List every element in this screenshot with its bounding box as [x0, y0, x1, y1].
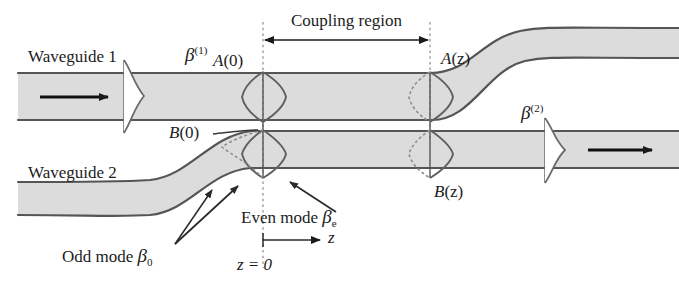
amplitude-az-arg: (z) [451, 49, 470, 68]
coupling-region-label: Coupling region [291, 12, 402, 29]
amplitude-az-label: A(z) [441, 50, 470, 67]
amplitude-b0-arg: (0) [179, 123, 199, 142]
amplitude-bz-label: B(z) [434, 183, 463, 200]
beta-2-superscript: (2) [530, 102, 543, 114]
odd-mode-label: Odd mode β0 [62, 246, 153, 268]
odd-mode-text: Odd mode [62, 247, 138, 266]
beta-2-label: β(2) [521, 103, 543, 122]
even-mode-symbol: β [322, 206, 331, 227]
amplitude-bz-name: B [434, 182, 444, 201]
output-mode-profile-wg2 [545, 118, 565, 183]
waveguide-2-body [18, 131, 679, 216]
amplitude-a0-name: A [213, 51, 223, 70]
odd-mode-symbol: β [138, 245, 147, 266]
beta-1-superscript: (1) [194, 44, 207, 56]
even-mode-text: Even mode [241, 208, 322, 227]
waveguide-2-label: Waveguide 2 [28, 164, 117, 181]
amplitude-az-name: A [441, 49, 451, 68]
odd-mode-subscript: 0 [147, 256, 153, 268]
amplitude-bz-arg: (z) [444, 182, 463, 201]
z-origin-label: z = 0 [237, 256, 272, 273]
even-mode-label: Even mode βe [241, 207, 337, 229]
z-axis-label: z [328, 229, 335, 246]
beta-1-label: β(1) [185, 45, 207, 64]
waveguide-1-body [18, 28, 679, 120]
amplitude-a0-arg: (0) [223, 51, 243, 70]
amplitude-b0-name: B [169, 123, 179, 142]
amplitude-a0-label: A(0) [213, 52, 243, 69]
input-mode-profile-wg1 [124, 60, 144, 133]
waveguide-1-label: Waveguide 1 [28, 48, 117, 65]
amplitude-b0-label: B(0) [169, 124, 199, 141]
directional-coupler-figure: Waveguide 1 β(1) A(0) Coupling region A(… [0, 0, 679, 298]
